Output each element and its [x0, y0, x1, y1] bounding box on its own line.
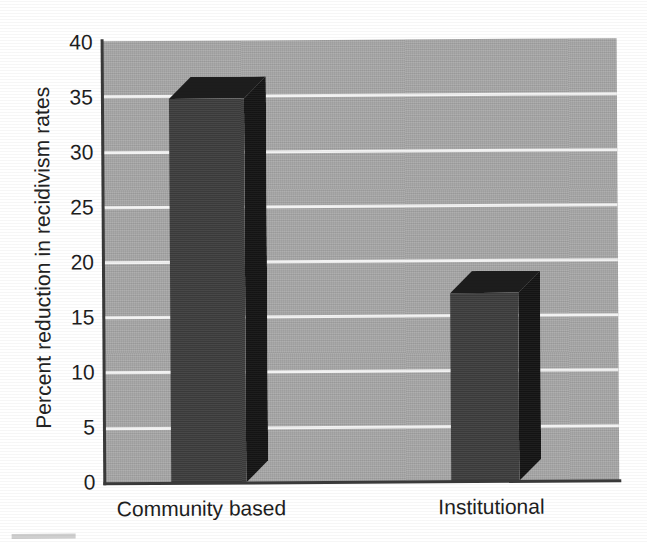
- x-tick-label-institutional: Institutional: [401, 494, 581, 519]
- y-tick-label-15: 15: [50, 306, 94, 327]
- bar-community-based-side-face: [244, 76, 268, 482]
- scan-edge-artifact: [12, 534, 76, 539]
- y-tick-label-30: 30: [49, 141, 93, 162]
- bar-chart-figure: Percent reduction in recidivism rates 40…: [0, 0, 647, 542]
- y-tick-label-20: 20: [50, 251, 94, 272]
- y-tick-label-0: 0: [51, 471, 95, 492]
- bar-community-based-front-face: [169, 98, 246, 482]
- bar-institutional[interactable]: [450, 293, 519, 481]
- bar-community-based[interactable]: [169, 98, 246, 482]
- y-tick-label-5: 5: [51, 416, 95, 437]
- y-tick-label-25: 25: [50, 196, 94, 217]
- y-axis-tick-labels: 40 35 30 25 20 15 10 5 0: [46, 1, 95, 542]
- bar-institutional-side-face: [518, 271, 541, 481]
- y-tick-label-40: 40: [49, 31, 93, 52]
- bar-institutional-side-wrap: [518, 271, 541, 481]
- y-tick-label-10: 10: [51, 361, 95, 382]
- x-tick-label-community-based: Community based: [111, 496, 291, 521]
- y-tick-label-35: 35: [49, 86, 93, 107]
- plot-area: [103, 38, 620, 483]
- bar-institutional-front-face: [450, 293, 519, 481]
- bar-community-based-side-wrap: [244, 76, 268, 482]
- scan-page-skew-wrapper: Percent reduction in recidivism rates 40…: [0, 0, 647, 542]
